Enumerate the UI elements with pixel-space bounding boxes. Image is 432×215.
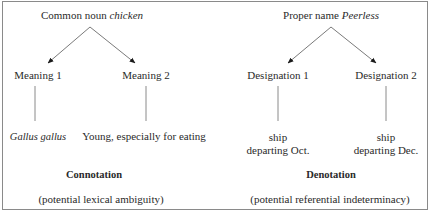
meaning-2-label: Meaning 2 [122,69,169,82]
leaf-ship-dec: ship departing Dec. [354,131,419,157]
denotation-heading: Denotation [306,168,356,181]
diagram-connectors [0,0,432,215]
leaf-gallus-gallus: Gallus gallus [10,130,66,143]
arrow-to-meaning-2 [90,27,135,63]
root-term-peerless: Peerless [342,9,379,21]
root-term-chicken: chicken [109,9,143,21]
connotation-heading: Connotation [66,168,122,181]
arrow-to-meaning-1 [48,27,90,63]
leaf-young-for-eating: Young, especially for eating [82,130,206,143]
root-prefix-label: Proper name [283,9,342,21]
root-prefix-label: Common noun [41,9,109,21]
leaf-ship-dec-line1: ship [354,131,419,144]
leaf-ship-dec-line2: departing Dec. [354,144,419,157]
denotation-note: (potential referential indeterminacy) [250,193,409,206]
designation-1-label: Designation 1 [247,69,308,82]
leaf-ship-oct: ship departing Oct. [247,131,310,157]
root-common-noun: Common noun chicken [41,9,143,22]
leaf-ship-oct-line1: ship [247,131,310,144]
arrow-to-designation-1 [288,27,331,63]
designation-2-label: Designation 2 [355,69,416,82]
connotation-note: (potential lexical ambiguity) [38,193,163,206]
meaning-1-label: Meaning 1 [14,69,61,82]
root-proper-name: Proper name Peerless [283,9,379,22]
leaf-ship-oct-line2: departing Oct. [247,144,310,157]
arrow-to-designation-2 [331,27,376,63]
